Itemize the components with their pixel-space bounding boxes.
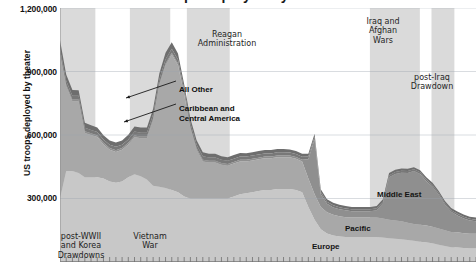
y-tick-label: 300,000 [1,193,57,203]
leader-line-all-other-arrowhead [126,95,130,98]
era-label-post-wwii-korea: post-WWII and Korea Drawdowns [57,232,105,260]
series-label-pacific: Pacific [345,224,371,233]
series-label-europe: Europe [312,242,340,251]
era-label-vietnam-war: Vietnam War [128,232,172,251]
y-tick-label: 600,000 [1,130,57,140]
series-label-middle-east: Middle East [377,190,421,199]
leader-line-caribbean-arrowhead [124,119,128,122]
chart-title: US troops deployed by theater [132,0,432,3]
callout-caribbean-central-america: Caribbean and Central America [179,104,240,123]
y-axis-tick-labels: 1,200,000 900,000 600,000 300,000 [0,0,57,272]
area-chart-svg [60,8,476,262]
chart-screenshot: US troops deployed by theater US troops … [0,0,476,272]
y-tick-label: 900,000 [1,67,57,77]
callout-all-other: All Other [179,85,213,95]
y-tick-label: 1,200,000 [1,4,57,14]
era-label-iraq-afghan-wars: Iraq and Afghan Wars [359,17,407,45]
plot-area [60,8,476,262]
era-label-post-iraq-drawdown: post-Iraq Drawdown [403,73,461,92]
era-label-reagan-administration: Reagan Administration [191,30,263,49]
